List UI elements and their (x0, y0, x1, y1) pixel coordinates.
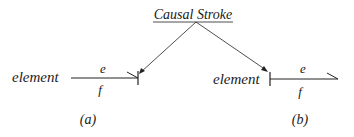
element-label-b: element (213, 71, 260, 87)
diagram-b: element e f (b) (213, 61, 338, 128)
diagram-a: element e f (a) (12, 61, 138, 128)
flow-label-a: f (98, 82, 104, 97)
caption-b: (b) (292, 112, 309, 128)
effort-label-b: e (300, 61, 306, 76)
pointer-line-b (196, 22, 266, 70)
bond-graph-diagram: Causal Stroke element e f (a) element e … (0, 0, 354, 137)
flow-label-b: f (298, 84, 304, 99)
effort-label-a: e (100, 61, 106, 76)
pointer-line-a (141, 22, 196, 72)
half-arrow-a-icon (127, 72, 138, 78)
caption-a: (a) (80, 112, 97, 128)
causal-stroke-title: Causal Stroke (154, 7, 232, 22)
half-arrow-b-icon (327, 73, 338, 79)
element-label-a: element (12, 69, 59, 85)
